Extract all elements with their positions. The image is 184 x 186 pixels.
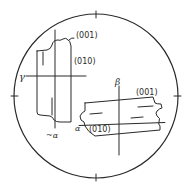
crystal-diagram: (001) (010) γ ~α β (001) α (010) <box>0 0 184 186</box>
label-right-001: (001) <box>136 88 158 97</box>
label-alpha: α <box>75 124 81 133</box>
label-approx-alpha: ~α <box>46 131 59 140</box>
label-beta: β <box>114 77 120 87</box>
label-gamma: γ <box>19 71 25 82</box>
left-crystal <box>26 30 86 128</box>
label-right-010: (010) <box>89 125 111 134</box>
diagram-canvas: (001) (010) γ ~α β (001) α (010) <box>0 0 184 186</box>
label-left-010: (010) <box>74 57 96 66</box>
label-left-001: (001) <box>76 31 98 40</box>
